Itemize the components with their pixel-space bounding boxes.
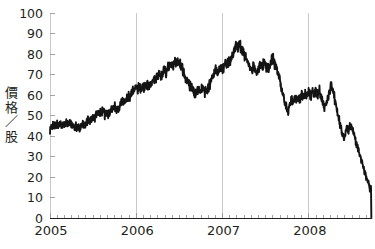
year-gridlines [50, 13, 309, 218]
y-tick-label-90: 90 [27, 26, 43, 41]
stock-price-chart: 價 格 ／ 股 0102030405060708090100 200520062… [0, 0, 375, 249]
x-axis-tick-labels: 2005200620072008 [34, 223, 326, 238]
y-tick-label-70: 70 [27, 67, 43, 82]
y-tick-label-100: 100 [19, 6, 43, 21]
y-tick-label-30: 30 [27, 149, 43, 164]
x-tick-label-2007: 2007 [207, 223, 240, 238]
y-tick-label-10: 10 [27, 190, 43, 205]
y-tick-label-20: 20 [27, 170, 43, 185]
x-axis-minor-ticks [50, 213, 366, 218]
y-axis-tick-marks [50, 13, 55, 218]
x-tick-label-2006: 2006 [121, 223, 154, 238]
y-axis-tick-labels: 0102030405060708090100 [19, 6, 43, 226]
chart-canvas: 0102030405060708090100 2005200620072008 [0, 0, 375, 249]
y-tick-label-50: 50 [27, 108, 43, 123]
price-series-line [50, 41, 372, 218]
y-tick-label-60: 60 [27, 88, 43, 103]
x-tick-label-2008: 2008 [293, 223, 326, 238]
y-tick-label-40: 40 [27, 129, 43, 144]
y-tick-label-80: 80 [27, 47, 43, 62]
x-tick-label-2005: 2005 [34, 223, 67, 238]
